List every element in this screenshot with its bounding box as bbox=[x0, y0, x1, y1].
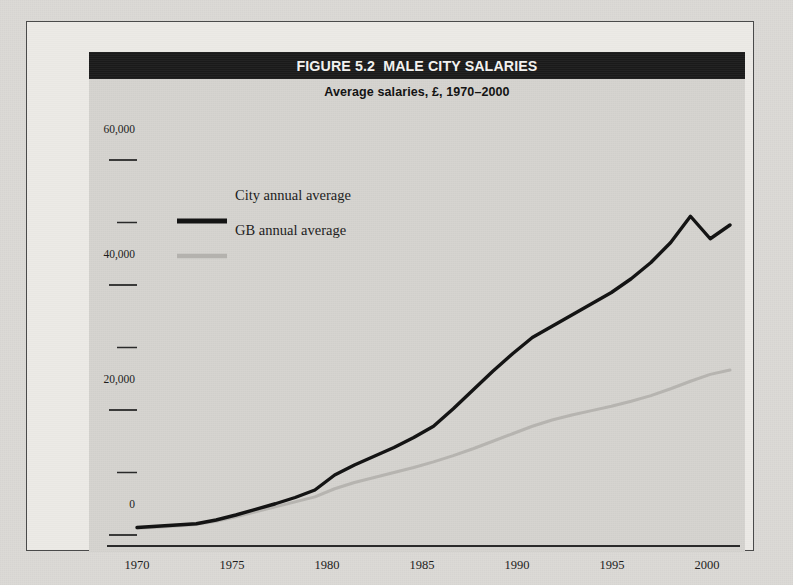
y-tick-label-40000: 40,000 bbox=[87, 248, 135, 260]
x-tick-label-1990: 1990 bbox=[492, 558, 542, 573]
x-tick-label-1985: 1985 bbox=[397, 558, 447, 573]
legend-label-city: City annual average bbox=[235, 187, 351, 204]
page-background: FIGURE 5.2 MALE CITY SALARIES Average sa… bbox=[0, 0, 793, 585]
x-tick-label-1975: 1975 bbox=[207, 558, 257, 573]
figure-outer-frame: FIGURE 5.2 MALE CITY SALARIES Average sa… bbox=[26, 21, 754, 551]
figure-title: FIGURE 5.2 MALE CITY SALARIES bbox=[296, 57, 537, 75]
legend-label-gb: GB annual average bbox=[235, 222, 346, 239]
y-tick-label-0: 0 bbox=[87, 498, 135, 510]
x-tick-label-2000: 2000 bbox=[682, 558, 732, 573]
figure-container: FIGURE 5.2 MALE CITY SALARIES Average sa… bbox=[89, 52, 745, 552]
y-tick-label-20000: 20,000 bbox=[87, 373, 135, 385]
figure-title-bar: FIGURE 5.2 MALE CITY SALARIES bbox=[89, 52, 745, 79]
y-axis-ticks bbox=[109, 160, 137, 535]
y-tick-label-60000: 60,000 bbox=[87, 123, 135, 135]
x-tick-label-1980: 1980 bbox=[302, 558, 352, 573]
series-layer bbox=[137, 216, 730, 528]
x-tick-label-1995: 1995 bbox=[587, 558, 637, 573]
line-chart bbox=[89, 79, 745, 552]
x-tick-label-1970: 1970 bbox=[112, 558, 162, 573]
legend-markers bbox=[177, 221, 227, 256]
